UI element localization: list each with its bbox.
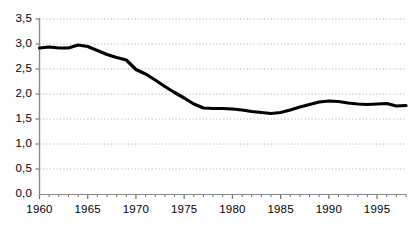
x-axis-tick-label-1975: 1975 — [163, 203, 205, 215]
x-axis-tick-label-1990: 1990 — [308, 203, 350, 215]
y-axis-tick-label-2,5: 2,5 — [2, 63, 32, 74]
y-axis-tick-label-2,0: 2,0 — [2, 88, 32, 99]
y-axis-tick-label-1,5: 1,5 — [2, 113, 32, 124]
x-axis-tick-label-1970: 1970 — [115, 203, 157, 215]
chart-plot-area — [0, 0, 413, 231]
x-axis-tick-label-1965: 1965 — [67, 203, 109, 215]
data-line-series-1 — [40, 45, 407, 114]
x-axis-tick-label-1985: 1985 — [260, 203, 302, 215]
chart-container: 0,00,51,01,52,02,53,03,5 196019651970197… — [0, 0, 413, 231]
y-axis-tick-label-0,5: 0,5 — [2, 163, 32, 174]
y-axis-tick-label-1,0: 1,0 — [2, 138, 32, 149]
y-axis-tick-label-3,5: 3,5 — [2, 13, 32, 24]
x-axis-tick-label-1995: 1995 — [356, 203, 398, 215]
y-axis-tick-label-3,0: 3,0 — [2, 38, 32, 49]
gridlines-group — [36, 19, 407, 169]
x-axis-tick-label-1980: 1980 — [211, 203, 253, 215]
x-axis-tick-label-1960: 1960 — [19, 203, 61, 215]
y-axis-tick-label-0,0: 0,0 — [2, 188, 32, 199]
